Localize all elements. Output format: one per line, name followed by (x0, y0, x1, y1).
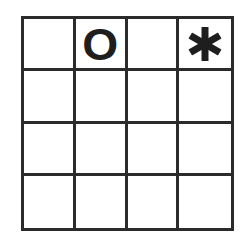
board-cell-r3-c1[interactable] (76, 176, 128, 228)
asterisk-icon (187, 26, 223, 62)
board-cell-r0-c2[interactable] (128, 19, 180, 71)
game-board: O (21, 16, 234, 231)
board-cell-r1-c1[interactable] (76, 71, 128, 123)
board-cell-r2-c2[interactable] (128, 124, 180, 176)
board-cell-r0-c1[interactable]: O (76, 19, 128, 71)
board-cell-r0-c0[interactable] (24, 19, 76, 71)
board-cell-r1-c0[interactable] (24, 71, 76, 123)
board-cell-r3-c0[interactable] (24, 176, 76, 228)
board-cell-r3-c2[interactable] (128, 176, 180, 228)
board-cell-r0-c3[interactable] (179, 19, 231, 71)
board-cell-r1-c3[interactable] (179, 71, 231, 123)
o-mark: O (82, 23, 118, 67)
board-cell-r3-c3[interactable] (179, 176, 231, 228)
board-cell-r2-c3[interactable] (179, 124, 231, 176)
board-cell-r1-c2[interactable] (128, 71, 180, 123)
board-cell-r2-c0[interactable] (24, 124, 76, 176)
board-cell-r2-c1[interactable] (76, 124, 128, 176)
